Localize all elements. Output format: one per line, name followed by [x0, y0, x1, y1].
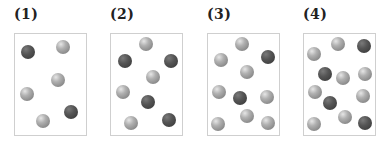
light-sphere-icon	[214, 53, 228, 67]
dark-sphere-icon	[141, 95, 155, 109]
light-sphere-icon	[51, 73, 65, 87]
dark-sphere-icon	[233, 91, 247, 105]
light-sphere-icon	[116, 85, 130, 99]
light-sphere-icon	[358, 67, 372, 81]
light-sphere-icon	[20, 87, 34, 101]
light-sphere-icon	[146, 70, 160, 84]
light-sphere-icon	[240, 109, 254, 123]
light-sphere-icon	[260, 90, 274, 104]
dark-sphere-icon	[261, 50, 275, 64]
panel-2-label: (2)	[110, 6, 135, 22]
light-sphere-icon	[36, 114, 50, 128]
dark-sphere-icon	[64, 105, 78, 119]
dark-sphere-icon	[323, 96, 337, 110]
light-sphere-icon	[139, 37, 153, 51]
light-sphere-icon	[338, 110, 352, 124]
light-sphere-icon	[308, 85, 322, 99]
dark-sphere-icon	[318, 67, 332, 81]
light-sphere-icon	[211, 117, 225, 131]
light-sphere-icon	[212, 85, 226, 99]
light-sphere-icon	[240, 65, 254, 79]
panel-1-label: (1)	[14, 6, 39, 22]
light-sphere-icon	[336, 71, 350, 85]
light-sphere-icon	[331, 37, 345, 51]
dark-sphere-icon	[118, 54, 132, 68]
dark-sphere-icon	[357, 39, 371, 53]
light-sphere-icon	[356, 89, 370, 103]
dark-sphere-icon	[162, 113, 176, 127]
light-sphere-icon	[307, 117, 321, 131]
light-sphere-icon	[261, 116, 275, 130]
light-sphere-icon	[307, 47, 321, 61]
panel-3-label: (3)	[207, 6, 232, 22]
light-sphere-icon	[235, 37, 249, 51]
dark-sphere-icon	[358, 116, 372, 130]
light-sphere-icon	[56, 40, 70, 54]
light-sphere-icon	[124, 116, 138, 130]
panel-4-label: (4)	[303, 6, 328, 22]
dark-sphere-icon	[21, 45, 35, 59]
dark-sphere-icon	[164, 54, 178, 68]
